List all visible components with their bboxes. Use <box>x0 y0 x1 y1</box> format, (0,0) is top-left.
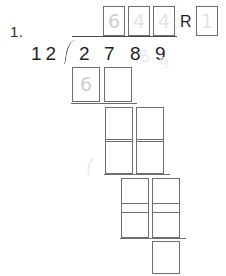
work-row-1-box-2[interactable] <box>104 67 132 102</box>
dividend-digit-3: 8 <box>130 44 141 63</box>
quotient-box-1[interactable] <box>103 6 125 36</box>
long-division-worksheet: 1. 6 4 4 R 1 12 2 7 8 9 8 9 ( 6 <box>0 0 226 276</box>
subtraction-rule-1 <box>71 103 137 104</box>
subtraction-rule-2 <box>104 174 170 175</box>
work-row-3-box-1[interactable] <box>105 139 133 174</box>
division-bracket-hook <box>64 40 78 64</box>
work-row-3-box-2[interactable] <box>136 139 164 174</box>
work-row-2-box-2[interactable] <box>136 107 164 142</box>
problem-number: 1. <box>10 24 24 39</box>
work-row-1-box-1[interactable] <box>72 67 100 102</box>
quotient-box-3[interactable] <box>153 6 175 36</box>
remainder-box[interactable] <box>196 6 218 36</box>
divisor: 12 <box>31 44 60 63</box>
dividend-digit-1: 2 <box>79 44 90 63</box>
work-row-6-box-1[interactable] <box>152 241 180 274</box>
eraser-smudge-3: ( <box>84 155 96 176</box>
work-row-2-box-1[interactable] <box>105 107 133 142</box>
division-bracket-bar <box>72 36 177 37</box>
quotient-box-2[interactable] <box>128 6 150 36</box>
dividend-digit-4: 9 <box>155 44 166 63</box>
subtraction-rule-3 <box>120 238 186 239</box>
dividend-digit-2: 7 <box>104 44 115 63</box>
remainder-label: R <box>180 14 192 30</box>
work-row-5-box-2[interactable] <box>152 203 180 238</box>
work-row-5-box-1[interactable] <box>121 203 149 238</box>
